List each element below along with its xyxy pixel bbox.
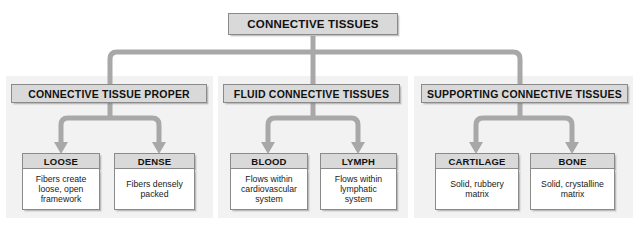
node-category-connective-tissue-proper: CONNECTIVE TISSUE PROPER [11,84,207,103]
node-leaf-description: Solid, rubbery matrix [435,169,519,210]
node-leaf-loose: LOOSE Fibers create loose, open framewor… [22,153,100,210]
node-leaf-description: Solid, crystalline matrix [530,169,615,210]
node-leaf-label: CARTILAGE [435,153,519,169]
node-leaf-description: Flows within cardiovascular system [230,169,308,210]
node-leaf-description-text: Fibers create loose, open framework [36,174,87,205]
node-leaf-bone: BONE Solid, crystalline matrix [530,153,615,210]
node-leaf-description-text: Fibers densely packed [126,179,183,200]
node-leaf-description: Fibers densely packed [114,169,195,210]
node-category-label: CONNECTIVE TISSUE PROPER [11,84,207,103]
node-category-supporting-connective-tissues: SUPPORTING CONNECTIVE TISSUES [421,84,628,103]
node-leaf-label: LOOSE [22,153,100,169]
node-leaf-description-text: Flows within lymphatic system [335,174,382,205]
node-leaf-description-text: Flows within cardiovascular system [241,174,297,205]
node-leaf-cartilage: CARTILAGE Solid, rubbery matrix [435,153,519,210]
node-leaf-label: DENSE [114,153,195,169]
connective-tissues-flowchart: CONNECTIVE TISSUES CONNECTIVE TISSUE PRO… [0,0,637,233]
node-leaf-label: BONE [530,153,615,169]
node-leaf-description: Flows within lymphatic system [320,169,397,210]
node-leaf-description: Fibers create loose, open framework [22,169,100,210]
node-category-fluid-connective-tissues: FLUID CONNECTIVE TISSUES [223,84,400,103]
node-leaf-label: LYMPH [320,153,397,169]
node-leaf-description-text: Solid, rubbery matrix [450,179,504,200]
node-category-label: FLUID CONNECTIVE TISSUES [223,84,400,103]
node-leaf-description-text: Solid, crystalline matrix [541,179,604,200]
node-leaf-blood: BLOOD Flows within cardiovascular system [230,153,308,210]
node-leaf-label: BLOOD [230,153,308,169]
node-leaf-lymph: LYMPH Flows within lymphatic system [320,153,397,210]
node-root-connective-tissues: CONNECTIVE TISSUES [228,13,398,35]
node-root-label: CONNECTIVE TISSUES [228,13,398,35]
node-leaf-dense: DENSE Fibers densely packed [114,153,195,210]
node-category-label: SUPPORTING CONNECTIVE TISSUES [421,84,628,103]
